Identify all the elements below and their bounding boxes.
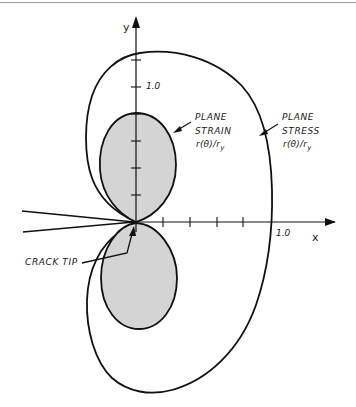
- plane-strain-arrowhead: [173, 126, 182, 133]
- plane-strain-line1: PLANE: [195, 113, 227, 122]
- x-axis-label: x: [312, 232, 319, 243]
- x-tick-label-1: 1.0: [276, 229, 290, 238]
- x-axis-arrowhead: [325, 218, 336, 226]
- plane-stress-line1: PLANE: [282, 113, 314, 122]
- plane-stress-formula: r(θ)/ry: [283, 140, 312, 152]
- plane-strain-formula-sub: y: [220, 144, 224, 152]
- plane-strain-formula-main: r(θ)/r: [196, 139, 220, 149]
- plane-stress-formula-main: r(θ)/r: [283, 139, 307, 149]
- crack-faces: [22, 211, 134, 232]
- plane-stress-formula-sub: y: [307, 144, 311, 152]
- y-axis-label: y: [123, 22, 130, 33]
- plane-stress-line2: STRESS: [282, 127, 320, 136]
- plane-strain-line2: STRAIN: [195, 127, 232, 136]
- y-tick-label-1: 1.0: [146, 82, 160, 91]
- plane-strain-formula: r(θ)/ry: [196, 140, 225, 152]
- plane-strain-lower-lobe: [101, 223, 177, 329]
- plastic-zone-diagram: [0, 0, 356, 407]
- y-axis-arrowhead: [132, 16, 140, 28]
- crack-tip-label: CRACK TIP: [25, 258, 78, 267]
